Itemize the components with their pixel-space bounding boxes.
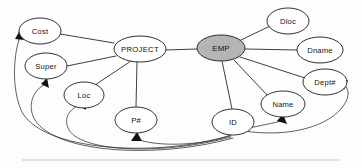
node-dname[interactable]: Dname — [297, 37, 343, 63]
node-label-dloc: Dloc — [280, 17, 296, 26]
node-loc[interactable]: Loc — [64, 82, 104, 108]
node-label-name: Name — [272, 100, 293, 109]
node-label-dname: Dname — [307, 46, 332, 55]
node-label-super: Super — [35, 62, 57, 71]
node-label-project: PROJECT — [121, 45, 159, 54]
node-label-deptno: Dept# — [314, 78, 336, 87]
edge-project-cost — [60, 34, 114, 43]
node-label-pnum: P# — [131, 116, 141, 125]
edge-emp-dloc — [239, 26, 270, 41]
node-id[interactable]: ID — [212, 109, 254, 135]
node-label-loc: Loc — [78, 91, 91, 100]
node-emp[interactable]: EMP — [197, 35, 245, 61]
edge-project-emp — [166, 49, 197, 50]
edge-emp-id — [222, 61, 232, 109]
node-label-cost: Cost — [32, 27, 49, 36]
node-deptno[interactable]: Dept# — [303, 69, 347, 95]
edge-emp-deptno — [240, 57, 305, 78]
arrowhead-super — [41, 78, 49, 88]
edge-project-super — [67, 56, 116, 66]
er-diagram: Cost PROJECT Dloc EMP Dname Super Dept# — [0, 0, 362, 168]
node-name[interactable]: Name — [261, 91, 305, 117]
node-label-emp: EMP — [212, 44, 230, 53]
edge-emp-name — [234, 60, 268, 96]
node-pnum[interactable]: P# — [115, 107, 157, 133]
edge-project-pnum — [136, 62, 137, 107]
node-cost[interactable]: Cost — [19, 18, 61, 44]
node-dloc[interactable]: Dloc — [267, 8, 309, 34]
node-super[interactable]: Super — [25, 53, 67, 79]
edge-emp-dname — [245, 49, 297, 50]
edge-project-loc — [95, 61, 131, 85]
node-project[interactable]: PROJECT — [114, 36, 166, 62]
er-diagram-canvas: Cost PROJECT Dloc EMP Dname Super Dept# — [0, 0, 362, 168]
edge-arc-id-pnum — [137, 136, 230, 144]
node-label-id: ID — [229, 118, 237, 127]
